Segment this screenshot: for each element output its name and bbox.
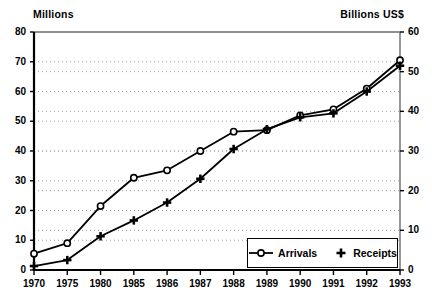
y-axis-left-tick-50: 50: [0, 115, 26, 126]
y-axis-left-tick-80: 80: [0, 26, 26, 37]
legend-item-receipts: Receipts: [333, 246, 397, 260]
y-axis-left-tick-60: 60: [0, 86, 26, 97]
plus-marker-icon: [333, 246, 349, 260]
open-circle-marker-icon: [248, 246, 274, 260]
y-axis-right-tick-10: 10: [408, 224, 432, 235]
y-axis-left-tick-20: 20: [0, 205, 26, 216]
legend-item-arrivals: Arrivals: [248, 246, 317, 260]
y-axis-right-tick-0: 0: [408, 264, 432, 275]
series-arrivals: [31, 57, 403, 257]
y-axis-right-tick-20: 20: [408, 185, 432, 196]
tourism-chart: Millions Billions US$ 010203040506070800…: [0, 0, 432, 307]
legend-label: Arrivals: [278, 247, 317, 259]
y-axis-left-tick-0: 0: [0, 264, 26, 275]
y-axis-left-tick-30: 30: [0, 175, 26, 186]
y-axis-right-tick-50: 50: [408, 66, 432, 77]
y-axis-right-tick-30: 30: [408, 145, 432, 156]
legend-label: Receipts: [353, 247, 397, 259]
y-axis-left-tick-10: 10: [0, 234, 26, 245]
y-axis-left-tick-40: 40: [0, 145, 26, 156]
chart-legend: ArrivalsReceipts: [247, 238, 398, 268]
x-axis-tick-1993: 1993: [380, 278, 420, 289]
y-axis-right-tick-40: 40: [408, 105, 432, 116]
y-axis-left-tick-70: 70: [0, 56, 26, 67]
y-axis-right-tick-60: 60: [408, 26, 432, 37]
